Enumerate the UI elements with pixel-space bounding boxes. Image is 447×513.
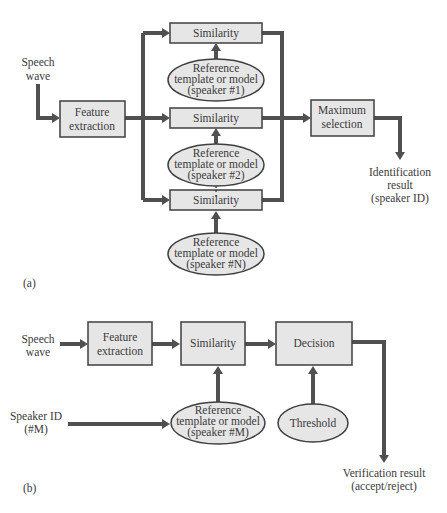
svg-text:(speaker #M): (speaker #M) [187,426,249,439]
threshold-label: Threshold [290,417,337,429]
ellipsis-dots: ⋮ [210,185,222,197]
verification-result-label: Verification result [343,467,427,479]
svg-text:extraction: extraction [69,120,115,132]
speech-wave-label: Speech [21,56,54,69]
similarity-label-1: Similarity [193,27,239,40]
similarity-label-b: Similarity [190,337,236,350]
panel-label-a: (a) [23,277,36,290]
svg-text:wave: wave [26,346,50,358]
svg-text:selection: selection [322,118,363,130]
identification-result-label: Identification [369,166,431,178]
panel-label-b: (b) [23,482,37,495]
svg-text:result: result [387,179,413,191]
decision-label: Decision [294,337,335,349]
svg-text:extraction: extraction [97,345,143,357]
svg-text:(speaker #1): (speaker #1) [187,84,244,97]
feature-extraction-label-b: Feature [103,331,137,343]
similarity-label-2: Similarity [193,112,239,125]
svg-text:(speaker #N): (speaker #N) [186,258,246,271]
maximum-selection-label: Maximum [318,104,366,116]
feature-extraction-box-b [88,322,152,365]
svg-text:(speaker #2): (speaker #2) [187,169,244,182]
feature-extraction-label: Feature [75,106,109,118]
speaker-id-label: Speaker ID [10,410,62,423]
svg-text:(accept/reject): (accept/reject) [351,480,417,493]
svg-text:(#M): (#M) [24,423,48,436]
svg-text:(speaker ID): (speaker ID) [371,192,429,205]
speech-wave-label-b: Speech [21,333,54,346]
svg-text:wave: wave [26,70,50,82]
verification-diagram: Speech wave Feature extraction Similarit… [10,322,426,495]
speaker-recognition-diagram: Speech wave Feature extraction Similarit… [0,0,447,513]
identification-diagram: Speech wave Feature extraction Similarit… [21,23,431,290]
